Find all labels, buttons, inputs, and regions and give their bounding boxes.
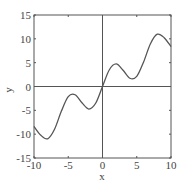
x-tick-label: 5 (134, 159, 140, 171)
y-axis-label: y (2, 87, 14, 93)
line-chart: -10-50510 -15-10-5051015 x y (0, 0, 187, 186)
y-tick-label: -10 (16, 128, 31, 140)
x-tick-label: -5 (64, 159, 74, 171)
x-axis-label: x (99, 170, 105, 182)
x-tick-label: 10 (166, 159, 178, 171)
y-tick-label: 5 (26, 57, 32, 69)
y-tick-label: 10 (20, 33, 32, 45)
y-tick-label: 15 (20, 9, 32, 21)
y-tick-label: -15 (16, 152, 31, 164)
y-tick-label: 0 (26, 81, 32, 93)
y-tick-labels: -15-10-5051015 (16, 9, 31, 164)
y-tick-label: -5 (22, 104, 32, 116)
